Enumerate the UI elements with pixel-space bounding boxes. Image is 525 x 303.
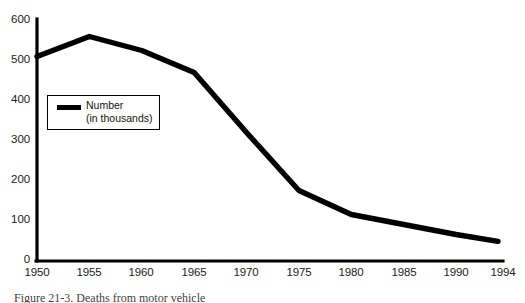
y-tick-label-400: 400 xyxy=(0,93,30,105)
x-tick-label-1965: 1965 xyxy=(174,266,214,278)
y-tick-label-0: 0 xyxy=(0,253,30,265)
x-tick-label-1985: 1985 xyxy=(384,266,424,278)
chart-legend: Number (in thousands) xyxy=(47,95,160,130)
x-tick-label-1960: 1960 xyxy=(121,266,161,278)
y-tick-label-200: 200 xyxy=(0,173,30,185)
legend-label-units: (in thousands) xyxy=(86,112,153,125)
y-tick-label-100: 100 xyxy=(0,213,30,225)
x-tick-label-1970: 1970 xyxy=(226,266,266,278)
line-chart-canvas xyxy=(0,0,525,303)
x-tick-label-1975: 1975 xyxy=(279,266,319,278)
legend-swatch-number xyxy=(57,105,81,111)
x-tick-label-1980: 1980 xyxy=(331,266,371,278)
legend-label-series-name: Number xyxy=(86,99,153,112)
data-series-number-line xyxy=(37,37,498,242)
figure-container: 600 500 400 300 200 100 0 1950 1955 1960… xyxy=(0,0,525,303)
legend-text-block: Number (in thousands) xyxy=(86,99,153,124)
y-tick-label-300: 300 xyxy=(0,133,30,145)
figure-caption: Figure 21-3. Deaths from motor vehicle xyxy=(14,291,205,303)
y-tick-label-500: 500 xyxy=(0,53,30,65)
x-tick-label-1955: 1955 xyxy=(69,266,109,278)
y-tick-label-600: 600 xyxy=(0,13,30,25)
x-tick-label-1990: 1990 xyxy=(436,266,476,278)
x-tick-label-1994: 1994 xyxy=(483,266,523,278)
x-tick-label-1950: 1950 xyxy=(17,266,57,278)
